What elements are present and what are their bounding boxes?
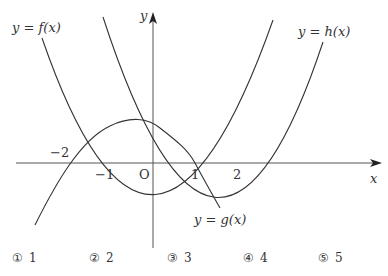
choice-2[interactable]: ②2 xyxy=(89,251,114,265)
label-h-text: y = h(x) xyxy=(298,24,350,39)
tick-2: 2 xyxy=(233,168,241,181)
choice-marker: ③ xyxy=(167,251,178,265)
label-h: y = h(x) xyxy=(298,25,350,38)
label-g-text: y = g(x) xyxy=(194,212,246,227)
choice-3[interactable]: ③3 xyxy=(167,251,192,265)
choice-value: 3 xyxy=(184,251,192,265)
choice-value: 4 xyxy=(260,251,268,265)
choice-marker: ① xyxy=(12,251,23,265)
tick-minus-1: −1 xyxy=(95,168,114,181)
choice-4[interactable]: ④4 xyxy=(243,251,268,265)
x-axis-label: x xyxy=(370,172,377,185)
choice-marker: ④ xyxy=(243,251,254,265)
choice-value: 1 xyxy=(29,251,37,265)
label-f: y = f(x) xyxy=(12,21,61,34)
graph-canvas xyxy=(0,0,388,276)
choice-marker: ② xyxy=(89,251,100,265)
tick-1: 1 xyxy=(191,168,199,181)
origin-label: O xyxy=(139,168,150,181)
label-f-text: y = f(x) xyxy=(12,20,61,35)
choice-marker: ⑤ xyxy=(318,251,329,265)
tick-minus-2: −2 xyxy=(50,146,69,159)
choice-value: 2 xyxy=(106,251,114,265)
choice-value: 5 xyxy=(335,251,343,265)
label-g: y = g(x) xyxy=(194,213,246,226)
y-axis-label: y xyxy=(140,9,147,22)
answer-choices: ①1 ②2 ③3 ④4 ⑤5 xyxy=(0,251,388,269)
curve-h xyxy=(103,17,323,197)
choice-1[interactable]: ①1 xyxy=(12,251,37,265)
choice-5[interactable]: ⑤5 xyxy=(318,251,343,265)
